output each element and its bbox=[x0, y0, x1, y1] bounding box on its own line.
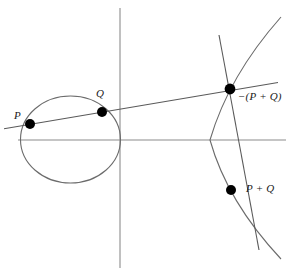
point-p-plus-q bbox=[226, 185, 236, 195]
secant-line bbox=[4, 83, 278, 129]
point-p bbox=[25, 119, 35, 129]
elliptic-curve-figure: P Q −(P + Q) P + Q bbox=[0, 0, 291, 278]
point-label-minus-p-plus-q: −(P + Q) bbox=[238, 91, 282, 102]
point-q bbox=[97, 107, 107, 117]
curve-canvas bbox=[0, 0, 291, 278]
reflection-line bbox=[219, 35, 259, 250]
point-label-p: P bbox=[14, 110, 21, 121]
point-label-p-plus-q: P + Q bbox=[246, 183, 274, 194]
point-label-q: Q bbox=[96, 88, 104, 99]
point-minus-p-plus-q bbox=[225, 84, 236, 95]
curve-right-branch bbox=[210, 17, 281, 259]
